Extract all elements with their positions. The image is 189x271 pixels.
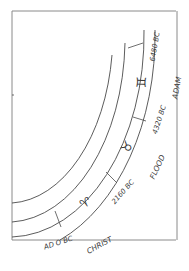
zodiac-ages-diagram: ♊ ♉ ♈ 6480 BC 4320 BC 2160 BC AD O BC AD…	[0, 0, 189, 271]
event-christ: CHRIST	[85, 234, 115, 256]
arc-inner	[12, 55, 112, 203]
date-6480: 6480 BC	[149, 31, 162, 62]
date-2160: 2160 BC	[110, 178, 136, 206]
taurus-glyph-icon: ♉	[118, 138, 137, 156]
gemini-glyph-icon: ♊	[134, 76, 149, 88]
divider-6480	[128, 43, 143, 48]
event-flood: FLOOD	[148, 153, 167, 180]
diagram-svg: ♊ ♉ ♈ 6480 BC 4320 BC 2160 BC AD O BC AD…	[0, 0, 189, 271]
date-0: AD O BC	[42, 235, 74, 252]
date-4320: 4320 BC	[151, 104, 168, 135]
divider-2160	[106, 172, 117, 183]
event-adam: ADAM	[170, 75, 183, 100]
aries-glyph-icon: ♈	[77, 194, 94, 212]
